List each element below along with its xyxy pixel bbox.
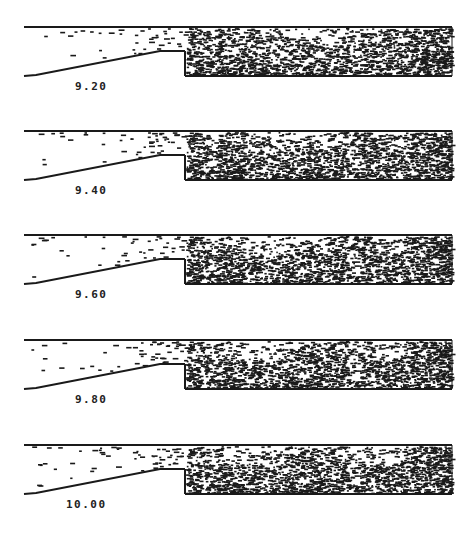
time-label: 9.80 (75, 393, 108, 406)
particle-field (31, 236, 455, 285)
flow-snapshot-plot (0, 313, 476, 413)
time-label: 9.20 (75, 80, 108, 93)
flow-snapshot-plot (0, 104, 476, 204)
ramp-wall (24, 259, 185, 284)
flow-snapshot-plot (0, 208, 476, 308)
ramp-wall (24, 155, 185, 180)
flow-snapshot-panel: 9.40 (0, 104, 476, 204)
flow-snapshot-panel: 9.20 (0, 0, 476, 100)
flow-snapshot-panel: 9.80 (0, 313, 476, 413)
ramp-wall (24, 469, 185, 494)
time-label: 10.00 (66, 498, 107, 511)
particle-field (39, 132, 456, 181)
ramp-wall (24, 51, 185, 76)
flow-snapshot-plot (0, 0, 476, 100)
particle-field (32, 446, 455, 495)
flow-snapshot-panel: 9.60 (0, 208, 476, 308)
time-label: 9.40 (75, 184, 108, 197)
ramp-wall (24, 364, 185, 389)
particle-field (44, 28, 455, 77)
particle-field (31, 341, 455, 390)
flow-snapshot-panel: 10.00 (0, 418, 476, 518)
time-label: 9.60 (75, 288, 108, 301)
